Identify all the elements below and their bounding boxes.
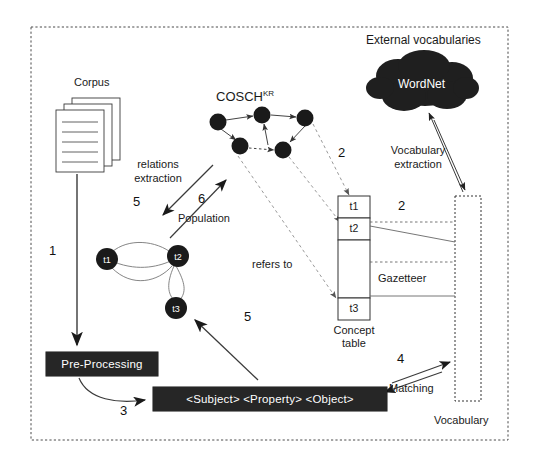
triple-box[interactable]: <Subject> <Property> <Object>	[153, 387, 387, 411]
step-number-2-concept: 2	[338, 146, 345, 159]
step-number-4: 4	[397, 352, 404, 365]
label-external-vocabularies: External vocabularies	[366, 34, 481, 46]
label-wordnet: WordNet	[398, 78, 445, 90]
label-concept-table-line1: Concept	[322, 324, 386, 336]
label-concept-table-line2: table	[322, 337, 386, 349]
pre-processing-box[interactable]: Pre-Processing	[46, 352, 158, 376]
label-population: Population	[178, 212, 230, 224]
label-corpus: Corpus	[74, 76, 109, 88]
step-number-3: 3	[120, 404, 127, 417]
label-relations-extraction-line1: relations	[119, 158, 197, 170]
arrow-step5-triple	[195, 320, 258, 380]
concept-cell-t3: t3	[338, 302, 370, 314]
label-vocabulary-extraction-line2: extraction	[378, 158, 458, 170]
label-refers-to: refers to	[252, 258, 292, 270]
label-matching: Matching	[389, 382, 434, 394]
step-number-5-relations: 5	[133, 195, 140, 208]
arrow-step6-population	[170, 180, 226, 238]
figure-canvas: External vocabularies Corpus COSCHKR Wor…	[0, 0, 534, 463]
triple-node-t1: t1	[97, 254, 117, 266]
cosch-base-text: COSCH	[216, 89, 263, 104]
concept-cell-t2: t2	[338, 222, 370, 234]
dashed-links-to-concept-table	[238, 124, 349, 298]
triple-node-t3: t3	[166, 303, 186, 315]
gazetteer-connectors	[370, 222, 455, 296]
label-cosch-kr: COSCHKR	[216, 88, 274, 103]
label-gazetteer: Gazetteer	[378, 272, 426, 284]
corpus-stack	[56, 98, 120, 172]
label-vocabulary-extraction-line1: Vocabulary	[378, 144, 458, 156]
step-number-6: 6	[198, 192, 205, 205]
step-number-5-triple: 5	[244, 310, 251, 323]
label-vocabulary: Vocabulary	[434, 414, 488, 426]
arrow-step3	[79, 378, 145, 401]
step-number-1: 1	[49, 244, 56, 257]
cosch-superscript-kr: KR	[263, 89, 274, 98]
vocabulary-rect	[455, 196, 481, 401]
label-relations-extraction-line2: extraction	[119, 172, 197, 184]
triple-node-t2: t2	[168, 251, 188, 263]
concept-cell-t1: t1	[338, 200, 370, 212]
step-number-2-gazetteer: 2	[398, 199, 405, 212]
